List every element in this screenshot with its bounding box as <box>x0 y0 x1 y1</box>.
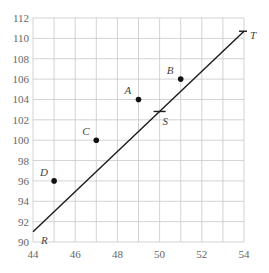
label-t: T <box>250 29 257 41</box>
x-tick-label: 46 <box>70 248 82 260</box>
regression-line: RTS <box>33 29 257 246</box>
point-label-c: C <box>82 125 90 137</box>
y-tick-label: 112 <box>13 12 29 24</box>
point-label-b: B <box>167 64 174 76</box>
y-tick-label: 98 <box>18 155 30 167</box>
y-tick-label: 90 <box>18 236 30 248</box>
data-point-d <box>51 178 57 184</box>
y-tick-label: 110 <box>13 32 30 44</box>
label-s: S <box>163 115 169 127</box>
y-tick-label: 106 <box>13 73 30 85</box>
y-tick-label: 96 <box>18 175 30 187</box>
x-tick-label: 54 <box>239 248 251 260</box>
data-point-b <box>178 76 184 82</box>
y-tick-label: 100 <box>13 134 30 146</box>
y-tick-label: 102 <box>13 114 30 126</box>
x-tick-label: 44 <box>28 248 40 260</box>
scatter-chart: 444648505254 909294969810010210410610811… <box>0 0 269 273</box>
y-tick-label: 104 <box>13 93 30 105</box>
y-axis-ticks: 9092949698100102104106108110112 <box>13 12 30 248</box>
data-point-c <box>94 137 100 143</box>
x-tick-label: 52 <box>196 248 207 260</box>
y-tick-label: 108 <box>13 53 30 65</box>
y-tick-label: 94 <box>18 195 30 207</box>
data-point-a <box>136 97 142 103</box>
point-label-d: D <box>39 166 48 178</box>
label-r: R <box>40 234 48 246</box>
x-tick-label: 50 <box>154 248 166 260</box>
grid <box>33 18 244 242</box>
y-tick-label: 92 <box>18 216 29 228</box>
point-label-a: A <box>124 84 132 96</box>
x-tick-label: 48 <box>112 248 124 260</box>
x-axis-ticks: 444648505254 <box>28 248 251 260</box>
